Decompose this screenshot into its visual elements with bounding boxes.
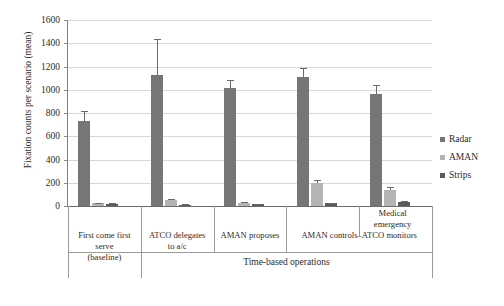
error-bar-cap	[241, 202, 248, 203]
bar-aman-3[interactable]	[311, 183, 323, 206]
y-axis-tick-label: 800	[20, 108, 60, 118]
x-axis-group-title: Time-based operations	[141, 257, 432, 268]
error-bar-cap	[168, 199, 175, 200]
legend-label-aman: AMAN	[449, 148, 478, 166]
y-axis-tick	[64, 183, 68, 184]
error-bar	[376, 85, 377, 94]
category-axis: First come firstserve(baseline)ATCO dele…	[68, 206, 433, 278]
category-divider-2	[214, 206, 215, 252]
bar-radar-2[interactable]	[224, 88, 236, 206]
error-bar-cap	[255, 204, 262, 205]
y-axis-tick-label: 1600	[20, 15, 60, 25]
y-axis-tick	[64, 90, 68, 91]
y-axis-tick-label: 1000	[20, 85, 60, 95]
legend-item-strips[interactable]: Strips	[440, 166, 478, 184]
y-axis-tick-label: 600	[20, 131, 60, 141]
y-axis-tick	[64, 20, 68, 21]
bar-radar-0[interactable]	[78, 121, 90, 206]
bar-radar-1[interactable]	[151, 75, 163, 206]
error-bar	[157, 39, 158, 74]
legend: Radar AMAN Strips	[440, 130, 478, 184]
error-bar-cap	[300, 68, 307, 69]
category-label-line: Medical	[353, 208, 432, 219]
legend-label-radar: Radar	[449, 130, 472, 148]
category-label-2: AMAN proposes	[214, 230, 287, 241]
category-divider-3	[286, 206, 287, 252]
y-axis-tick-label: 1400	[20, 38, 60, 48]
error-bar-cap	[314, 180, 321, 181]
bar-aman-4[interactable]	[384, 190, 396, 206]
error-bar-cap	[328, 203, 335, 204]
gridline	[68, 43, 432, 44]
error-bar	[230, 80, 231, 88]
legend-label-strips: Strips	[449, 166, 471, 184]
error-bar-cap	[95, 203, 102, 204]
category-label-line: First come first	[68, 230, 141, 241]
gridline	[68, 67, 432, 68]
y-axis-tick	[64, 113, 68, 114]
error-bar-cap	[154, 39, 161, 40]
error-bar	[303, 68, 304, 77]
y-axis-tick-label: 200	[20, 178, 60, 188]
error-bar	[84, 111, 85, 120]
legend-item-aman[interactable]: AMAN	[440, 148, 478, 166]
category-label-line: to a/c	[141, 241, 214, 252]
chart-figure: Fixation counts per scenario (mean) 0200…	[0, 0, 504, 306]
category-label-0: First come firstserve(baseline)	[68, 230, 141, 263]
gridline	[68, 20, 432, 21]
legend-swatch-strips	[440, 173, 445, 178]
y-axis-title: Fixation counts per scenario (mean)	[23, 0, 33, 200]
category-label-line: ATCO delegates	[141, 230, 214, 241]
category-label-1: ATCO delegatesto a/c	[141, 230, 214, 252]
y-axis-tick-label: 1200	[20, 62, 60, 72]
error-bar-cap	[387, 187, 394, 188]
legend-item-radar[interactable]: Radar	[440, 130, 478, 148]
legend-swatch-aman	[440, 155, 445, 160]
error-bar-cap	[401, 201, 408, 202]
legend-swatch-radar	[440, 137, 445, 142]
y-axis-tick-label: 0	[20, 201, 60, 211]
y-axis-tick	[64, 160, 68, 161]
error-bar-cap	[227, 80, 234, 81]
y-axis-tick	[64, 67, 68, 68]
error-bar-cap	[109, 203, 116, 204]
gridline	[68, 90, 432, 91]
bar-radar-3[interactable]	[297, 77, 309, 206]
bar-radar-4[interactable]	[370, 94, 382, 206]
error-bar-cap	[182, 204, 189, 205]
category-label-3: AMAN controls–ATCO monitors	[286, 230, 432, 241]
category-label-line: (baseline)	[68, 252, 141, 263]
plot-area	[68, 20, 432, 206]
category-label-4: Medicalemergency	[353, 208, 432, 230]
y-axis-tick	[64, 136, 68, 137]
error-bar-cap	[81, 111, 88, 112]
category-label-line: emergency	[353, 219, 432, 230]
y-axis-tick	[64, 43, 68, 44]
group-separator	[141, 252, 432, 253]
error-bar-cap	[373, 85, 380, 86]
category-border-right	[432, 206, 433, 278]
category-label-line: serve	[68, 241, 141, 252]
category-label-line: AMAN controls–ATCO monitors	[286, 230, 432, 241]
category-label-line: AMAN proposes	[214, 230, 287, 241]
y-axis-tick-label: 400	[20, 155, 60, 165]
